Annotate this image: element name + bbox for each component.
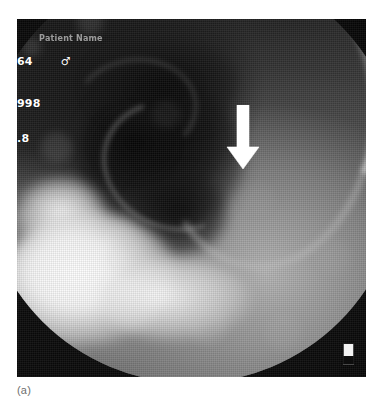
down-arrow-icon	[225, 105, 261, 171]
radiograph-image: Patient Name 64♂ 998 .8	[17, 19, 366, 377]
figure-root: Patient Name 64♂ 998 .8 (a)	[0, 0, 373, 404]
figure-caption: (a)	[17, 384, 31, 396]
overlay-patient-name: Patient Name	[39, 34, 103, 43]
overlay-sex-symbol: ♂	[61, 55, 71, 68]
overlay-extra: .8	[17, 133, 103, 145]
overlay-age: 64	[17, 55, 33, 68]
overlay-age-row: 64♂	[17, 56, 103, 68]
dicom-overlay-text: Patient Name 64♂ 998 .8	[17, 20, 103, 167]
overlay-date: 998	[17, 98, 103, 110]
laterality-marker-icon	[343, 343, 354, 365]
